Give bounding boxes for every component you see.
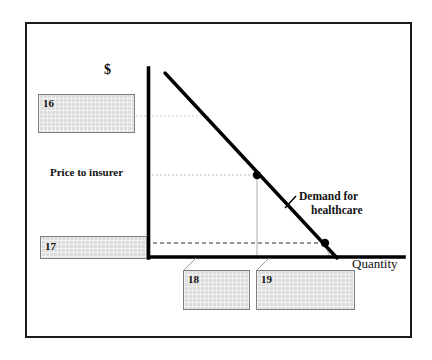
- x-axis-label: Quantity: [352, 256, 398, 272]
- answer-box-19-number: 19: [261, 273, 272, 285]
- answer-box-17[interactable]: 17: [40, 236, 147, 259]
- answer-box-19[interactable]: 19: [256, 270, 355, 310]
- answer-box-16-number: 16: [43, 97, 54, 109]
- answer-box-17-number: 17: [45, 240, 56, 252]
- price-to-insurer-label: Price to insurer: [50, 166, 123, 178]
- y-axis-label: $: [104, 62, 111, 78]
- demand-curve-label: Demand for healthcare: [299, 189, 389, 218]
- answer-box-16[interactable]: 16: [38, 94, 135, 133]
- answer-box-18-number: 18: [188, 273, 199, 285]
- demand-curve-label-line-2: healthcare: [299, 203, 389, 217]
- demand-curve-label-line-1: Demand for: [299, 189, 389, 203]
- answer-box-18[interactable]: 18: [183, 270, 250, 310]
